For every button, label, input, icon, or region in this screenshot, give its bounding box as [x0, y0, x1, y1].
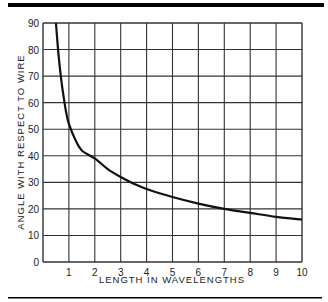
- data-line: [56, 23, 302, 220]
- y-tick-label: 90: [28, 18, 40, 29]
- x-tick-label: 8: [247, 267, 253, 278]
- x-tick-label: 9: [273, 267, 279, 278]
- y-axis-ticks: 0102030405060708090: [28, 18, 40, 268]
- y-tick-label: 40: [28, 151, 40, 162]
- top-rule: [8, 3, 324, 7]
- chart: 0102030405060708090 12345678910 LENGTH I…: [0, 0, 328, 302]
- y-axis-label: ANGLE WITH RESPECT TO WIRE: [15, 54, 26, 229]
- y-tick-label: 50: [28, 124, 40, 135]
- y-tick-label: 30: [28, 177, 40, 188]
- y-tick-label: 60: [28, 98, 40, 109]
- grid: [43, 23, 302, 262]
- y-tick-label: 20: [28, 204, 40, 215]
- bottom-rule: [8, 297, 322, 299]
- y-tick-label: 0: [33, 257, 39, 268]
- x-tick-label: 10: [296, 267, 308, 278]
- y-tick-label: 10: [28, 230, 40, 241]
- x-tick-label: 2: [92, 267, 98, 278]
- x-tick-label: 1: [66, 267, 72, 278]
- y-tick-label: 80: [28, 45, 40, 56]
- x-axis-label: LENGTH IN WAVELENGTHS: [99, 274, 245, 285]
- y-tick-label: 70: [28, 71, 40, 82]
